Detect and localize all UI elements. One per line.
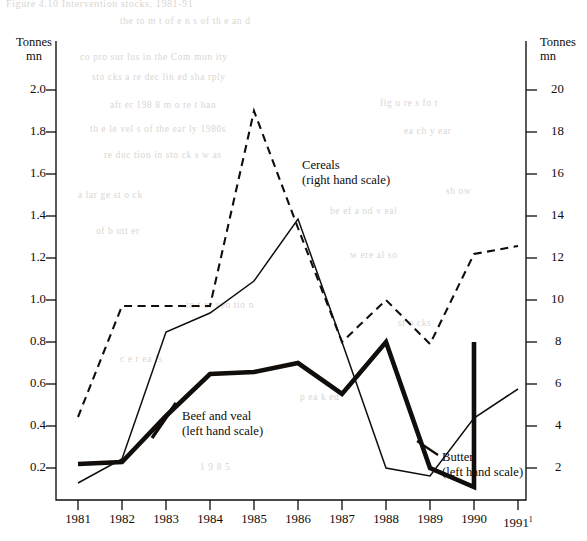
figure-intervention-stocks: Figure 4.10 Intervention stocks, 1981-91… [0,0,587,541]
leader-line-butter [417,441,438,455]
right-axis-ticks [526,90,537,468]
axis-frame [56,41,526,500]
x-axis-ticks [78,500,518,510]
plot-area [0,0,587,541]
left-axis-ticks [46,90,56,468]
series-line-cereals [78,111,518,417]
series-line-butter [78,219,518,483]
leader-line-beef [152,403,176,438]
